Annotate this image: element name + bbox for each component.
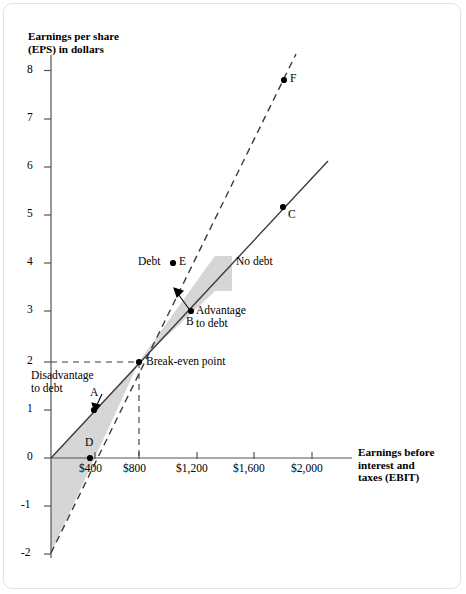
chart-canvas <box>0 0 466 594</box>
y-tick-label-5: 5 <box>27 207 33 220</box>
x-tick-label-400: $400 <box>79 462 102 475</box>
point-label-E: E <box>179 255 186 268</box>
figure-container: Earnings per share (EPS) in dollars Earn… <box>0 0 466 594</box>
point-label-D: D <box>85 436 93 449</box>
series-line-debt <box>51 54 296 553</box>
y-axis-ticks <box>44 71 51 555</box>
point-label-B: B <box>186 315 194 328</box>
x-tick-label-800: $800 <box>123 462 146 475</box>
x-tick-label-2000: $2,000 <box>291 462 323 475</box>
point-label-C: C <box>288 208 296 221</box>
data-point-C <box>280 204 286 210</box>
y-tick-label-3: 3 <box>27 303 33 316</box>
y-tick-label-7: 7 <box>27 111 33 124</box>
y-tick-label-neg2: -2 <box>21 546 31 559</box>
y-axis-title: Earnings per share (EPS) in dollars <box>28 30 119 55</box>
data-point-breakeven <box>136 359 142 365</box>
y-tick-label-8: 8 <box>27 63 33 76</box>
y-tick-label-0: 0 <box>27 450 33 463</box>
x-tick-label-1200: $1,200 <box>176 462 208 475</box>
data-point-E <box>170 260 176 266</box>
point-label-F: F <box>290 72 296 85</box>
annotation-break-even: Break-even point <box>146 355 226 368</box>
annotation-no-debt: No debt <box>236 255 273 268</box>
y-tick-label-4: 4 <box>27 255 33 268</box>
annotation-debt: Debt <box>138 255 160 268</box>
annotation-advantage-to-debt: Advantage to debt <box>196 304 246 330</box>
y-tick-label-neg1: -1 <box>21 498 31 511</box>
x-axis-title: Earnings before interest and taxes (EBIT… <box>358 446 435 484</box>
annotation-disadvantage-to-debt: Disadvantage to debt <box>31 369 94 395</box>
x-tick-label-1600: $1,600 <box>233 462 265 475</box>
y-tick-label-1: 1 <box>27 402 33 415</box>
y-tick-label-2: 2 <box>27 354 33 367</box>
y-tick-label-6: 6 <box>27 159 33 172</box>
data-point-F <box>281 77 287 83</box>
data-point-D <box>87 455 93 461</box>
